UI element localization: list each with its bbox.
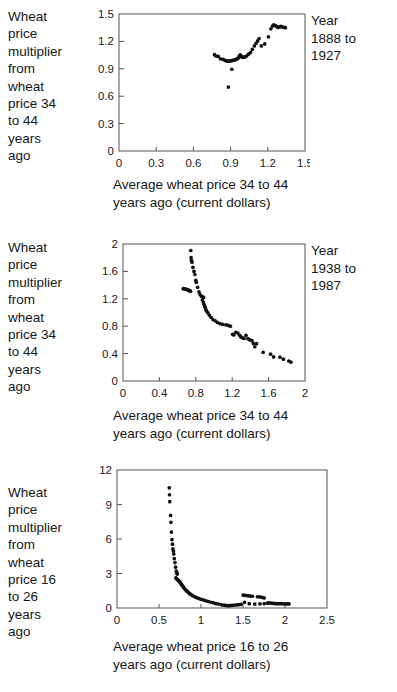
x-axis-caption-1: Average wheat price 34 to 44 years ago (…: [113, 176, 288, 212]
svg-text:0.4: 0.4: [102, 348, 119, 360]
svg-text:1.2: 1.2: [102, 293, 118, 305]
x-axis-caption-3: Average wheat price 16 to 26 years ago (…: [113, 638, 288, 674]
svg-text:2.5: 2.5: [319, 614, 335, 626]
svg-text:1.5: 1.5: [98, 10, 114, 20]
svg-text:0: 0: [106, 602, 112, 614]
scatter-plot-2: 00.40.81.21.6200.40.81.21.62: [95, 240, 310, 405]
svg-text:0: 0: [114, 614, 120, 626]
svg-text:0.5: 0.5: [151, 614, 167, 626]
svg-text:0: 0: [120, 387, 126, 399]
svg-text:1: 1: [198, 614, 204, 626]
svg-text:1.5: 1.5: [297, 157, 310, 169]
x-axis-caption-2: Average wheat price 34 to 44 years ago (…: [113, 407, 288, 443]
svg-text:0.3: 0.3: [148, 157, 164, 169]
plot-area-2: 00.40.81.21.6200.40.81.21.62: [95, 240, 310, 405]
y-axis-description-3: Wheat price multiplier from wheat price …: [8, 484, 92, 641]
svg-text:2: 2: [302, 387, 308, 399]
scatter-plot-3: 03691200.511.522.5: [95, 466, 335, 634]
svg-text:0.9: 0.9: [98, 63, 114, 75]
svg-text:1.2: 1.2: [98, 35, 114, 47]
svg-text:12: 12: [99, 466, 112, 476]
svg-text:1.2: 1.2: [260, 157, 276, 169]
figure-wheat-16-to-26: Wheat price multiplier from wheat price …: [0, 458, 397, 692]
svg-text:3: 3: [106, 568, 112, 580]
plot-area-3: 03691200.511.522.5: [95, 466, 335, 634]
svg-text:1.5: 1.5: [235, 614, 251, 626]
svg-text:2: 2: [112, 240, 118, 250]
y-axis-description-2: Wheat price multiplier from wheat price …: [8, 239, 92, 396]
figure-wheat-1938-1987: Wheat price multiplier from wheat price …: [0, 230, 397, 458]
y-axis-description-1: Wheat price multiplier from wheat price …: [8, 8, 92, 165]
year-annotation-2: Year 1938 to 1987: [311, 242, 397, 295]
svg-text:6: 6: [106, 533, 112, 545]
plot-area-1: 00.30.60.91.21.500.30.60.91.21.5: [95, 10, 310, 175]
svg-text:0: 0: [116, 157, 122, 169]
svg-text:0: 0: [108, 145, 114, 157]
svg-text:1.6: 1.6: [102, 265, 118, 277]
figure-wheat-1888-1927: Wheat price multiplier from wheat price …: [0, 0, 397, 230]
svg-text:0: 0: [112, 375, 118, 387]
year-annotation-1: Year 1888 to 1927: [311, 12, 397, 65]
svg-text:0.4: 0.4: [151, 387, 168, 399]
svg-text:9: 9: [106, 499, 112, 511]
svg-text:0.3: 0.3: [98, 118, 114, 130]
svg-text:1.6: 1.6: [261, 387, 277, 399]
svg-text:1.2: 1.2: [224, 387, 240, 399]
svg-text:2: 2: [282, 614, 288, 626]
scatter-plot-1: 00.30.60.91.21.500.30.60.91.21.5: [95, 10, 310, 175]
svg-text:0.9: 0.9: [223, 157, 239, 169]
svg-text:0.6: 0.6: [185, 157, 201, 169]
svg-text:0.8: 0.8: [102, 320, 118, 332]
svg-text:0.8: 0.8: [188, 387, 204, 399]
svg-text:0.6: 0.6: [98, 90, 114, 102]
